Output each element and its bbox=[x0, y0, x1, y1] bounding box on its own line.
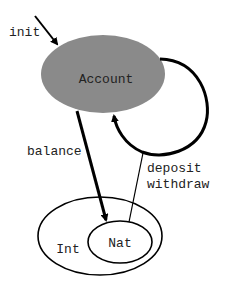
deposit-label: deposit bbox=[147, 161, 202, 176]
balance-label: balance bbox=[27, 144, 82, 159]
account-label: Account bbox=[79, 72, 134, 87]
int-label: Int bbox=[56, 242, 79, 257]
init-label: init bbox=[9, 25, 40, 40]
withdraw-label: withdraw bbox=[147, 177, 210, 192]
state-diagram: Account init balance deposit withdraw In… bbox=[0, 0, 229, 293]
int-node bbox=[38, 197, 162, 275]
deposit-withdraw-line bbox=[129, 153, 143, 222]
balance-arrow bbox=[77, 111, 106, 220]
nat-label: Nat bbox=[108, 236, 131, 251]
